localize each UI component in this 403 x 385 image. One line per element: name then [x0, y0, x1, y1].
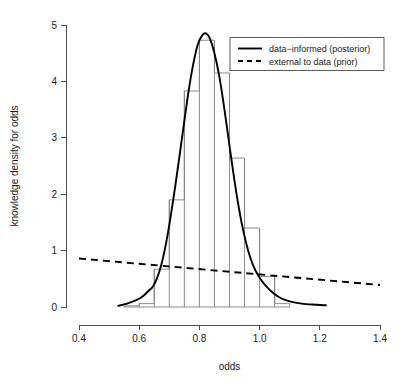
y-axis-tick-label: 0 [51, 302, 57, 313]
x-axis-title: odds [219, 361, 241, 372]
histogram-bars [124, 40, 290, 307]
y-axis-tick-label: 3 [51, 132, 57, 143]
y-axis-title: knowledge density for odds [9, 105, 20, 226]
y-axis: 012345 [51, 20, 66, 313]
density-plot: 012345 0.40.60.81.01.21.4 odds knowledge… [0, 0, 403, 385]
y-axis-line [61, 25, 66, 307]
y-axis-tick-label: 2 [51, 189, 57, 200]
x-axis-tick-label: 1.0 [253, 333, 267, 344]
x-axis-tick-label: 0.4 [72, 333, 86, 344]
histogram-outline [124, 40, 290, 307]
legend-label-posterior: data−informed (posterior) [269, 44, 370, 54]
y-axis-tick-label: 4 [51, 76, 57, 87]
legend-label-prior: external to data (prior) [269, 57, 358, 67]
x-axis-tick-label: 1.2 [313, 333, 327, 344]
x-axis-tick-label: 1.4 [373, 333, 387, 344]
chart-container: 012345 0.40.60.81.01.21.4 odds knowledge… [0, 0, 403, 385]
chart-legend: data−informed (posterior) external to da… [230, 38, 384, 71]
x-axis: 0.40.60.81.01.21.4 [72, 325, 387, 344]
y-axis-tick-label: 5 [51, 20, 57, 31]
x-axis-tick-label: 0.8 [192, 333, 206, 344]
y-axis-tick-label: 1 [51, 245, 57, 256]
posterior-curve [118, 33, 326, 306]
x-axis-line [79, 325, 380, 330]
x-axis-tick-label: 0.6 [132, 333, 146, 344]
